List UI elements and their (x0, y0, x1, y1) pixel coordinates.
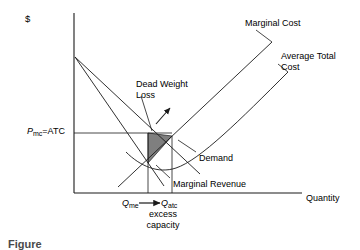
marginal-cost-label: Marginal Cost (245, 18, 301, 29)
atc-label-line1: Average Total (281, 51, 336, 61)
marginal-revenue-curve (75, 57, 164, 186)
q-me-subscript: me (129, 202, 139, 209)
x-axis-label: Quantity (306, 193, 340, 204)
price-level-label: Pmc=ATC (27, 126, 65, 138)
dead-weight-loss-label: Dead WeightLoss (136, 79, 198, 100)
average-total-cost-label: Average TotalCost (281, 51, 349, 72)
marginal-revenue-leader-line (156, 165, 170, 178)
price-subscript: mc (33, 130, 42, 137)
dwl-label-line2: Loss (136, 90, 155, 100)
q-atc-subscript: atc (168, 202, 177, 209)
excess-capacity-label-line1: excess (134, 209, 192, 220)
y-axis-label: $ (25, 14, 30, 25)
dead-weight-loss-leader-line (141, 96, 152, 131)
price-equals-atc: =ATC (42, 126, 65, 136)
figure-caption: Figure (8, 239, 42, 250)
q-me-symbol: Q (122, 198, 129, 208)
marginal-cost-curve (118, 42, 272, 187)
excess-capacity-label-line2: capacity (134, 220, 192, 231)
marginal-revenue-label: Marginal Revenue (173, 179, 246, 190)
dwl-label-line1: Dead Weight (136, 79, 188, 89)
q-me-label: Qme (122, 198, 139, 208)
q-atc-label: Qatc (161, 198, 177, 208)
demand-label: Demand (199, 153, 233, 164)
dead-weight-loss-arrow (156, 108, 170, 124)
demand-curve (75, 57, 200, 174)
marginal-cost-leader-line (256, 30, 272, 42)
atc-label-line2: Cost (281, 62, 300, 72)
demand-leader-line (178, 140, 196, 152)
q-atc-symbol: Q (161, 198, 168, 208)
